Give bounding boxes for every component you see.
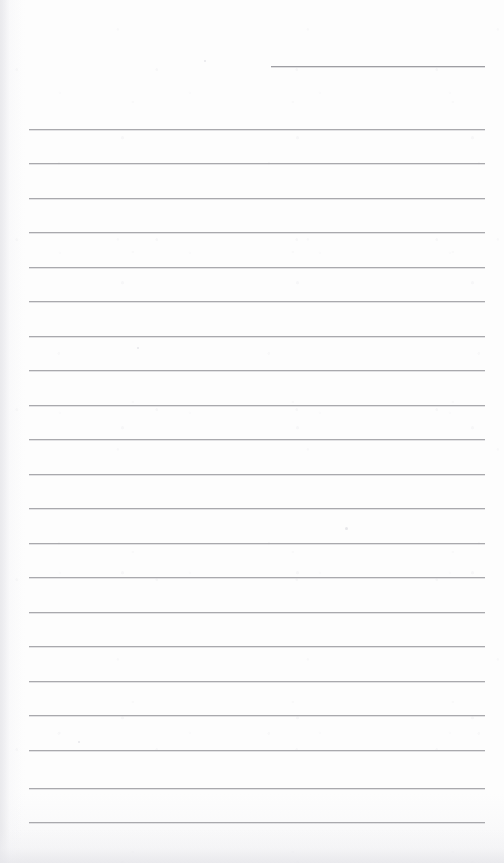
ruled-line (29, 577, 485, 578)
scan-speck (204, 60, 206, 62)
ruled-line (29, 439, 485, 440)
ruled-line (29, 822, 485, 823)
scan-speck (137, 347, 139, 349)
bottom-edge-scan-shadow (0, 829, 504, 863)
ruled-line (29, 336, 485, 337)
ruled-line (29, 301, 485, 302)
ruled-line (29, 508, 485, 509)
scan-speck (345, 527, 348, 530)
scanned-page (0, 0, 504, 863)
ruled-line (29, 198, 485, 199)
ruled-line (29, 405, 485, 406)
header-date-rule (271, 66, 485, 67)
left-edge-scan-shadow (0, 0, 22, 863)
ruled-line (29, 129, 485, 130)
ruled-line (29, 163, 485, 164)
ruled-line (29, 788, 485, 789)
ruled-line (29, 715, 485, 716)
ruled-line (29, 267, 485, 268)
ruled-line (29, 750, 485, 751)
ruled-line (29, 543, 485, 544)
ruled-line (29, 681, 485, 682)
ruled-line (29, 646, 485, 647)
ruled-line (29, 612, 485, 613)
ruled-line (29, 232, 485, 233)
ruled-line (29, 474, 485, 475)
ruled-line (29, 370, 485, 371)
scan-speck (78, 741, 80, 743)
